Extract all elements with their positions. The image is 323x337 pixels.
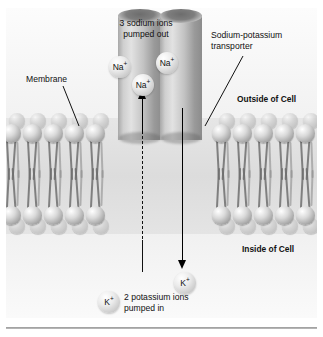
membrane-callout: Membrane — [26, 74, 67, 85]
outside-of-cell-label: Outside of Cell — [237, 94, 296, 105]
transporter-callout: Sodium-potassium transporter — [211, 30, 315, 51]
figure-stage: Na+ Na+ Na+ K+ K+ 3 sodium ions pumped o… — [0, 0, 323, 337]
leader-lines — [6, 8, 317, 318]
footer-rule — [6, 327, 317, 329]
diagram-panel: Na+ Na+ Na+ K+ K+ 3 sodium ions pumped o… — [6, 8, 317, 318]
inside-of-cell-label: Inside of Cell — [242, 244, 294, 255]
potassium-in-callout: 2 potassium ions pumped in — [124, 292, 189, 313]
sodium-out-callout: 3 sodium ions pumped out — [101, 18, 191, 39]
